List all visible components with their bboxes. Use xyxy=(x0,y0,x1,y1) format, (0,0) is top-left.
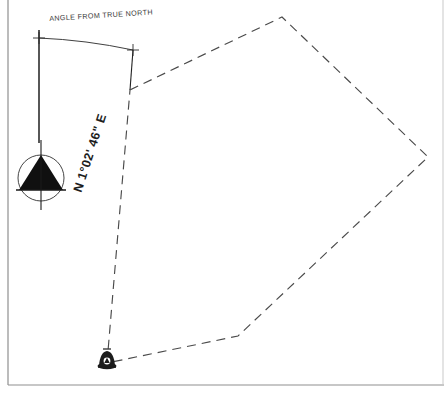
sheet-border xyxy=(8,0,444,385)
property-boundary-polygon xyxy=(107,17,428,363)
plat-canvas xyxy=(0,0,444,397)
angle-arc xyxy=(39,38,133,50)
survey-monument-icon xyxy=(98,349,117,369)
plat-drawing-page: ANGLE FROM TRUE NORTH N 1°02' 46" E xyxy=(0,0,444,397)
bearing-leg-line xyxy=(130,50,133,90)
compass-rose-icon xyxy=(16,140,66,210)
tick-mark-north xyxy=(33,32,45,44)
